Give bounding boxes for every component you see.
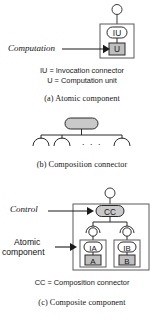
caption-panel-b: (b) Composition connector xyxy=(0,160,164,169)
annotation-atomic-line1: Atomic xyxy=(14,237,40,247)
composition-connector-drawing: . . . xyxy=(0,113,164,153)
caption-panel-c: (c) Composite component xyxy=(0,298,164,307)
node-label-iu: IU xyxy=(113,28,121,38)
subcomponent-b-interface-circle xyxy=(123,228,131,236)
legend-cc: CC = Composition connector xyxy=(0,278,164,287)
subcomponent-a-interface-circle xyxy=(89,228,97,236)
composite-component-drawing: CC IA A IB B xyxy=(0,185,164,285)
panel-atomic-component: IU U Computation IU = Invocation connect… xyxy=(0,0,164,62)
node-label-u: U xyxy=(114,44,120,54)
caption-panel-a: (a) Atomic component xyxy=(0,94,164,103)
composite-provided-interface-circle xyxy=(105,188,115,198)
node-label-b: B xyxy=(124,257,129,266)
annotation-computation: Computation xyxy=(8,43,55,53)
required-interface-arc-1 xyxy=(33,138,49,146)
required-interface-arc-2 xyxy=(54,138,70,146)
composition-connector-shape xyxy=(65,118,98,129)
panel-composite-component: CC IA A IB B Control Atomic component CC… xyxy=(0,185,164,285)
ellipsis-label: . . . xyxy=(82,137,102,147)
provided-interface-circle xyxy=(112,5,122,15)
panel-composition-connector: . . . (b) Composition connector xyxy=(0,113,164,153)
annotation-atomic-line2: component xyxy=(2,247,45,257)
legend-iu: IU = Invocation connector xyxy=(0,66,164,75)
node-label-cc: CC xyxy=(104,208,116,217)
required-interface-arc-3 xyxy=(114,138,130,146)
component-model-figure: IU U Computation IU = Invocation connect… xyxy=(0,0,164,335)
node-label-ia: IA xyxy=(89,244,97,253)
annotation-control: Control xyxy=(10,204,38,214)
node-label-ib: IB xyxy=(123,244,130,253)
node-label-a: A xyxy=(90,257,96,266)
legend-u: U = Computation unit xyxy=(0,76,164,85)
